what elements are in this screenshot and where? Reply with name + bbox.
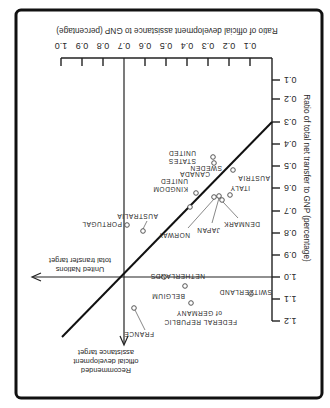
svg-text:official development: official development	[73, 357, 138, 366]
point-portugal	[125, 223, 130, 228]
svg-text:0.3: 0.3	[284, 117, 297, 127]
svg-text:0.2: 0.2	[284, 94, 297, 104]
un-target-note: United Nations total transfer target	[49, 256, 111, 274]
svg-text:0.8: 0.8	[97, 41, 110, 51]
oda-target-note: Recommended official development assista…	[73, 348, 138, 375]
svg-text:0.7: 0.7	[284, 206, 297, 216]
svg-text:1.2: 1.2	[284, 316, 297, 326]
svg-text:AUSTRIA: AUSTRIA	[238, 175, 270, 182]
chart-figure: 0.1 0.2 0.3 0.4 0.5 0.6 0.7 0.8 0.9 1.0 …	[0, 0, 330, 408]
diagonal-line	[62, 122, 272, 337]
svg-text:0.4: 0.4	[181, 41, 194, 51]
point-norway	[212, 195, 217, 200]
figure-frame	[16, 10, 322, 398]
svg-text:0.5: 0.5	[284, 161, 297, 171]
point-sweden	[211, 155, 216, 160]
svg-text:PORTUGAL: PORTUGAL	[82, 221, 122, 228]
point-federal-republic-germany	[189, 301, 194, 306]
svg-text:KINGDOM: KINGDOM	[153, 186, 188, 193]
svg-text:UNITED: UNITED	[168, 150, 196, 157]
svg-text:of GERMANY: of GERMANY	[176, 310, 222, 317]
svg-text:FRANCE: FRANCE	[124, 331, 154, 338]
svg-text:0.6: 0.6	[284, 183, 297, 193]
y-ticks: 0.1 0.2 0.3 0.4 0.5 0.6 0.7 0.8 0.9 1.0 …	[272, 75, 297, 326]
point-canada	[212, 161, 217, 166]
svg-text:SWITZERLAND: SWITZERLAND	[219, 289, 272, 296]
x-ticks: 0.1 0.2 0.3 0.4 0.5 0.6 0.7 0.8 0.9 1.0	[55, 41, 257, 66]
svg-text:0.3: 0.3	[202, 41, 215, 51]
point-france	[132, 306, 137, 311]
svg-text:JAPAN: JAPAN	[197, 227, 220, 234]
svg-text:0.6: 0.6	[139, 41, 152, 51]
svg-text:total transfer target: total transfer target	[49, 256, 111, 265]
point-denmark	[220, 198, 225, 203]
x-axis-title: Ratio of official development assistance…	[56, 26, 278, 35]
oda-target-line	[120, 58, 128, 345]
svg-text:NORWAY: NORWAY	[158, 232, 190, 239]
point-united-states	[188, 205, 193, 210]
svg-text:BELGIUM: BELGIUM	[152, 293, 185, 300]
svg-text:ITALY: ITALY	[230, 185, 250, 192]
svg-text:assistance target: assistance target	[78, 348, 134, 357]
data-points: SWEDEN CANADA AUSTRIA ITALY UNITED KINGD…	[82, 150, 272, 338]
point-japan	[217, 194, 222, 199]
svg-text:1.1: 1.1	[284, 294, 297, 304]
point-australia	[141, 229, 146, 234]
svg-text:0.7: 0.7	[118, 41, 131, 51]
svg-text:Recommended: Recommended	[81, 366, 131, 375]
svg-text:0.5: 0.5	[160, 41, 173, 51]
svg-text:United Nations: United Nations	[55, 265, 104, 274]
svg-text:AUSTRALIA: AUSTRALIA	[117, 213, 158, 220]
svg-text:SWEDEN: SWEDEN	[190, 165, 222, 172]
point-belgium	[183, 284, 188, 289]
svg-text:0.8: 0.8	[284, 228, 297, 238]
svg-text:1.0: 1.0	[55, 41, 68, 51]
svg-text:0.4: 0.4	[284, 139, 297, 149]
svg-text:CANADA: CANADA	[179, 171, 210, 178]
svg-text:UNITED: UNITED	[160, 178, 188, 185]
point-italy	[228, 193, 233, 198]
svg-text:DENMARK: DENMARK	[223, 221, 260, 228]
y-axis-title: Ratio of total net transfer to GNP (perc…	[302, 94, 311, 262]
svg-text:0.2: 0.2	[223, 41, 236, 51]
svg-text:0.1: 0.1	[284, 75, 297, 85]
svg-text:1.0: 1.0	[284, 272, 297, 282]
svg-text:NETHERLANDS: NETHERLANDS	[150, 273, 205, 280]
point-austria	[231, 168, 236, 173]
svg-text:0.9: 0.9	[76, 41, 89, 51]
point-united-kingdom	[194, 191, 199, 196]
svg-text:0.1: 0.1	[244, 41, 257, 51]
svg-text:FEDERAL REPUBLIC: FEDERAL REPUBLIC	[164, 319, 237, 326]
svg-text:STATES: STATES	[168, 158, 196, 165]
svg-text:0.9: 0.9	[284, 250, 297, 260]
